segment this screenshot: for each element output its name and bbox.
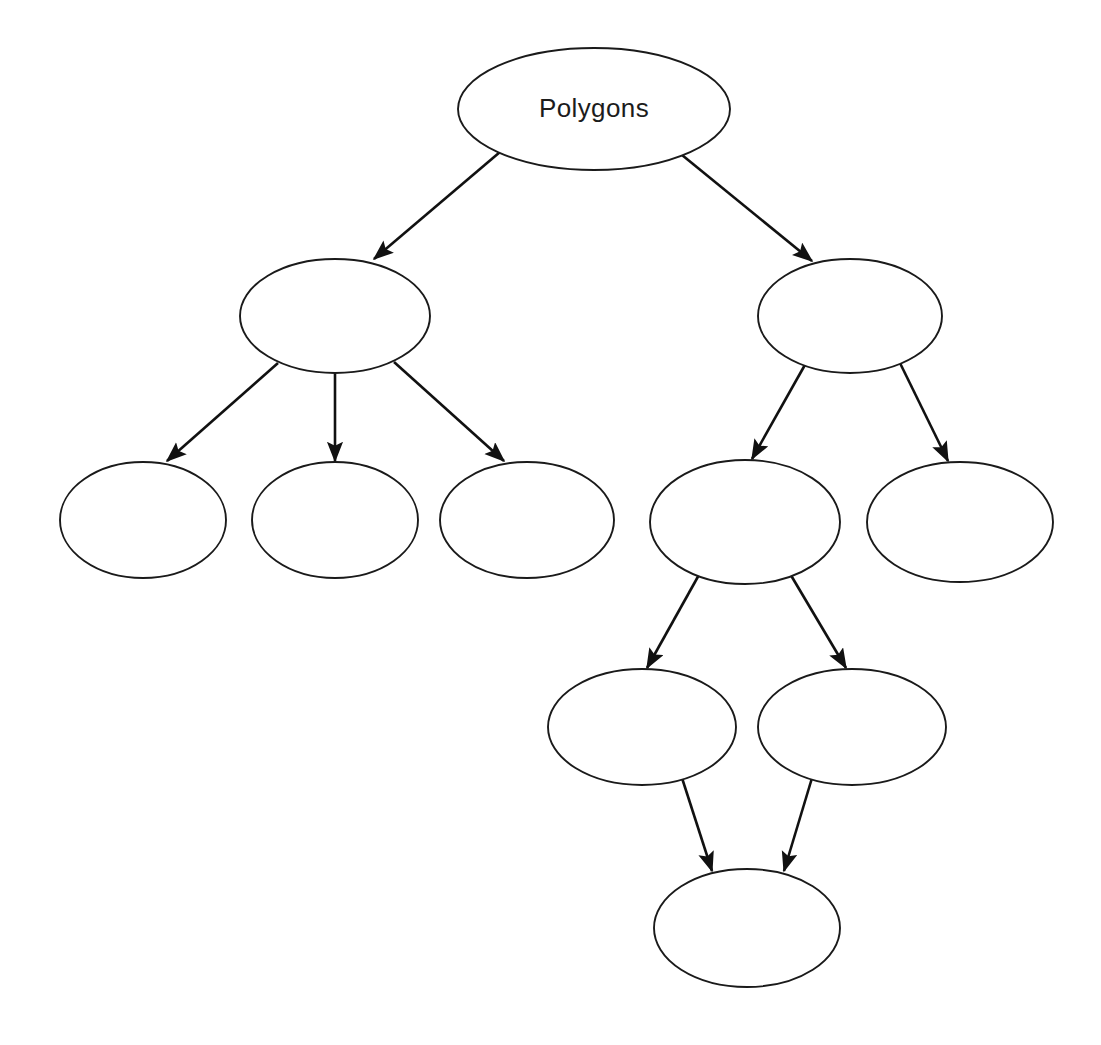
node-ellipse-l5a[interactable] — [654, 869, 840, 987]
node-l3b[interactable] — [252, 462, 418, 578]
node-l4b[interactable] — [758, 669, 946, 785]
node-ellipse-l3e[interactable] — [867, 462, 1053, 582]
edge-arrow-root-to-l2b — [682, 155, 812, 261]
node-l3c[interactable] — [440, 462, 614, 578]
node-l3d[interactable] — [650, 460, 840, 584]
node-label-root: Polygons — [539, 93, 649, 123]
node-l3a[interactable] — [60, 462, 226, 578]
edge-arrow-l2b-to-l3d — [752, 363, 806, 459]
edge-arrow-l3d-to-l4b — [789, 572, 846, 668]
node-l2b[interactable] — [758, 259, 942, 373]
node-ellipse-l3a[interactable] — [60, 462, 226, 578]
edge-arrow-l3d-to-l4a — [647, 573, 700, 668]
edge-arrow-l4b-to-l5a — [784, 778, 812, 871]
node-l3e[interactable] — [867, 462, 1053, 582]
node-l2a[interactable] — [240, 259, 430, 373]
node-ellipse-l2a[interactable] — [240, 259, 430, 373]
node-l5a[interactable] — [654, 869, 840, 987]
edge-arrow-l4a-to-l5a — [682, 778, 712, 871]
node-ellipse-l3d[interactable] — [650, 460, 840, 584]
edge-arrow-l2a-to-l3a — [167, 363, 278, 461]
node-ellipse-l3c[interactable] — [440, 462, 614, 578]
node-ellipse-l4b[interactable] — [758, 669, 946, 785]
edge-arrow-l2a-to-l3c — [394, 362, 504, 461]
node-ellipse-l2b[interactable] — [758, 259, 942, 373]
edge-arrow-l2b-to-l3e — [899, 361, 948, 461]
nodes-layer: Polygons — [60, 48, 1053, 987]
node-l4a[interactable] — [548, 669, 736, 785]
edge-arrow-root-to-l2a — [374, 152, 500, 259]
node-ellipse-l4a[interactable] — [548, 669, 736, 785]
diagram-canvas: Polygons — [0, 0, 1101, 1045]
node-root[interactable]: Polygons — [458, 48, 730, 170]
node-ellipse-l3b[interactable] — [252, 462, 418, 578]
